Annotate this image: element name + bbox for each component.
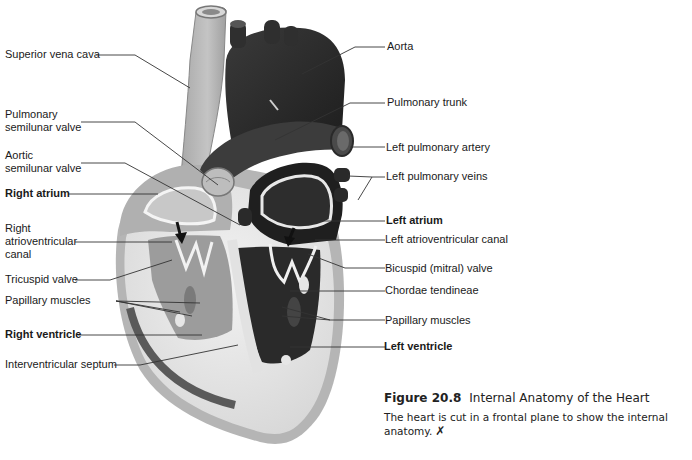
label-pulmonary-trunk: Pulmonary trunk — [387, 96, 467, 109]
label-left-atrium: Left atrium — [386, 214, 443, 227]
label-tricuspid-valve: Tricuspid valve — [5, 273, 78, 286]
label-aorta: Aorta — [387, 40, 413, 53]
label-left-ventricle: Left ventricle — [384, 340, 452, 353]
figure-number: Figure 20.8 — [384, 391, 461, 405]
label-interventricular-septum: Interventricular septum — [5, 358, 117, 371]
caption-title: Figure 20.8Internal Anatomy of the Heart — [384, 390, 692, 406]
label-left-pulmonary-artery: Left pulmonary artery — [386, 141, 490, 154]
label-bicuspid-valve: Bicuspid (mitral) valve — [385, 262, 493, 275]
label-chordae-tendineae: Chordae tendineae — [385, 284, 479, 297]
label-left-av-canal: Left atrioventricular canal — [385, 233, 508, 246]
pulmonary-valve-shape — [202, 168, 234, 196]
tutorial-icon: ✗ — [435, 424, 445, 438]
figure-title: Internal Anatomy of the Heart — [469, 391, 649, 405]
label-papillary-muscles-left: Papillary muscles — [385, 314, 471, 327]
label-right-av-canal: Right atrioventricular canal — [5, 222, 77, 261]
label-superior-vena-cava: Superior vena cava — [5, 48, 100, 61]
label-right-atrium: Right atrium — [5, 187, 70, 200]
label-papillary-muscles-right: Papillary muscles — [5, 294, 91, 307]
caption-line-2: anatomy. — [384, 425, 432, 437]
label-aortic-semilunar-valve: Aortic semilunar valve — [5, 149, 81, 175]
caption-line-1: The heart is cut in a frontal plane to s… — [384, 411, 668, 423]
label-right-ventricle: Right ventricle — [5, 328, 81, 341]
label-left-pulmonary-veins: Left pulmonary veins — [386, 170, 488, 183]
figure-caption: Figure 20.8Internal Anatomy of the Heart… — [384, 390, 692, 438]
label-pulmonary-semilunar-valve: Pulmonary semilunar valve — [5, 108, 81, 134]
heart-anatomy-figure: Superior vena cava Pulmonary semilunar v… — [0, 0, 692, 460]
caption-body: The heart is cut in a frontal plane to s… — [384, 410, 692, 438]
